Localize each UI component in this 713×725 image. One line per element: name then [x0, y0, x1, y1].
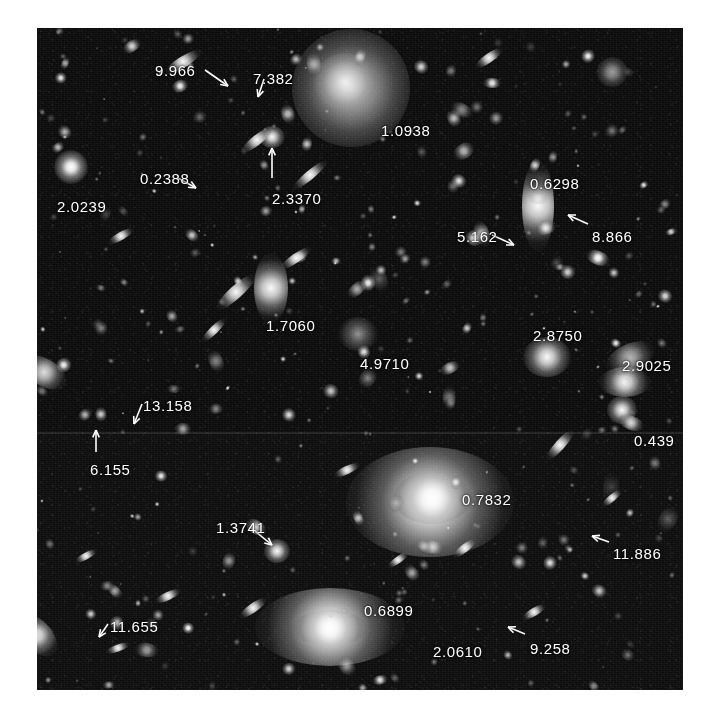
lower-mosaic-panel — [37, 434, 683, 690]
figure-astronomical-plate: 9.9667.3821.09380.23882.02392.33700.6298… — [0, 0, 713, 725]
mosaic-seam-line — [37, 432, 683, 434]
image-plate: 9.9667.3821.09380.23882.02392.33700.6298… — [37, 28, 683, 690]
